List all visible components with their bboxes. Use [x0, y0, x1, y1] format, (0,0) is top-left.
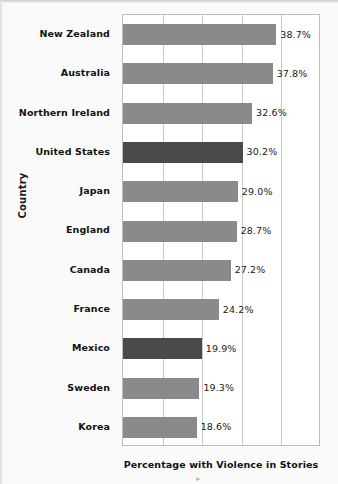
category-label: Korea [78, 421, 110, 432]
bar [123, 24, 276, 45]
category-label: France [74, 303, 110, 314]
bar-value-label: 28.7% [241, 225, 272, 236]
category-label-row: Japan [0, 171, 116, 210]
bar-value-label: 30.2% [247, 146, 278, 157]
bar-value-label: 18.6% [201, 421, 232, 432]
category-label: Sweden [67, 382, 110, 393]
category-label: England [66, 224, 110, 235]
bar-value-label: 38.7% [280, 29, 311, 40]
bar-value-label: 37.8% [277, 68, 308, 79]
bar [123, 142, 243, 163]
category-label: Australia [61, 67, 110, 78]
category-label-row: England [0, 210, 116, 249]
bar-value-label: 32.6% [256, 107, 287, 118]
bar-value-label: 19.9% [206, 343, 237, 354]
x-axis-title: Percentage with Violence in Stories [122, 459, 320, 470]
chart-page: Country New ZealandAustraliaNorthern Ire… [0, 0, 338, 484]
bar [123, 378, 199, 399]
category-label-row: New Zealand [0, 14, 116, 53]
bar [123, 221, 237, 242]
bar [123, 103, 252, 124]
bar [123, 338, 202, 359]
category-label-row: Canada [0, 250, 116, 289]
bar [123, 63, 273, 84]
bar-value-label: 29.0% [242, 186, 273, 197]
bar [123, 299, 219, 320]
category-label-row: France [0, 289, 116, 328]
plot-area: 38.7%37.8%32.6%30.2%29.0%28.7%27.2%24.2%… [122, 14, 320, 446]
scan-artifact-speck [196, 477, 201, 482]
category-label: Mexico [72, 342, 110, 353]
category-label-column: New ZealandAustraliaNorthern IrelandUnit… [0, 14, 116, 446]
bar-value-label: 24.2% [223, 304, 254, 315]
bar [123, 260, 231, 281]
category-label-row: Australia [0, 53, 116, 92]
gridline [281, 15, 282, 445]
bar [123, 181, 238, 202]
category-label-row: Korea [0, 407, 116, 446]
bar-value-label: 27.2% [235, 264, 266, 275]
category-label: New Zealand [39, 28, 110, 39]
category-label: United States [35, 146, 110, 157]
category-label: Northern Ireland [19, 107, 110, 118]
category-label: Canada [70, 264, 110, 275]
category-label: Japan [80, 185, 110, 196]
page-edge-top [0, 0, 338, 3]
category-label-row: Mexico [0, 328, 116, 367]
category-label-row: Sweden [0, 367, 116, 406]
bar [123, 417, 197, 438]
category-label-row: Northern Ireland [0, 93, 116, 132]
bar-value-label: 19.3% [203, 382, 234, 393]
category-label-row: United States [0, 132, 116, 171]
